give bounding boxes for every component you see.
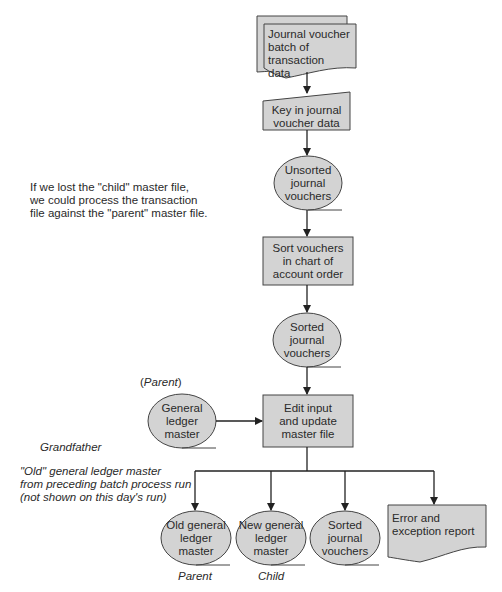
label-line: ledger: [233, 532, 309, 545]
label-line: journal: [273, 334, 341, 347]
label-line: Unsorted: [274, 164, 342, 177]
child-caption: Child: [258, 570, 284, 583]
label-line: Error and: [392, 512, 486, 525]
label-line: master: [233, 545, 309, 558]
label-line: in chart of: [263, 255, 353, 268]
label-line: master: [148, 428, 216, 441]
label-line: vouchers: [309, 545, 381, 558]
parent-word: Parent: [144, 376, 178, 388]
label-line: New general: [233, 519, 309, 532]
label-line: Journal voucher: [268, 28, 358, 41]
label-line: exception report: [392, 525, 486, 538]
error-report-label: Error and exception report: [392, 512, 486, 538]
label-line: master file: [263, 428, 353, 441]
label-line: vouchers: [274, 190, 342, 203]
label-line: Sort vouchers: [263, 242, 353, 255]
note-line: file against the "parent" master file.: [30, 207, 270, 220]
label-line: journal: [309, 532, 381, 545]
unsorted-label: Unsorted journal vouchers: [274, 164, 342, 203]
label-line: and update: [263, 415, 353, 428]
grandfather-label: Grandfather: [40, 441, 101, 454]
sort-label: Sort vouchers in chart of account order: [263, 242, 353, 281]
label-line: Old general: [158, 519, 234, 532]
label-line: data: [268, 67, 358, 80]
key-in-label: Key in journal voucher data: [263, 104, 350, 130]
label-line: master: [158, 545, 234, 558]
gl-master-label: General ledger master: [148, 402, 216, 441]
label-line: ledger: [158, 532, 234, 545]
edit-label: Edit input and update master file: [263, 402, 353, 441]
old-note: "Old" general ledger master from precedi…: [20, 465, 220, 504]
label-line: Edit input: [263, 402, 353, 415]
note-line: (not shown on this day's run): [20, 491, 220, 504]
sorted-label: Sorted journal vouchers: [273, 321, 341, 360]
paren: ): [178, 376, 182, 388]
parent-caption: Parent: [178, 570, 212, 583]
label-line: batch of transaction: [268, 41, 358, 67]
label-line: vouchers: [273, 347, 341, 360]
label-line: Sorted: [273, 321, 341, 334]
journal-batch-label: Journal voucher batch of transaction dat…: [268, 28, 358, 80]
note-line: we could process the transaction: [30, 194, 270, 207]
label-line: account order: [263, 268, 353, 281]
parent-tag: (Parent): [140, 376, 182, 389]
old-gl-label: Old general ledger master: [158, 519, 234, 558]
note-line: from preceding batch process run: [20, 478, 220, 491]
sorted-out-label: Sorted journal vouchers: [309, 519, 381, 558]
label-line: General: [148, 402, 216, 415]
label-line: voucher data: [263, 117, 350, 130]
new-gl-label: New general ledger master: [233, 519, 309, 558]
label-line: Key in journal: [263, 104, 350, 117]
label-line: journal: [274, 177, 342, 190]
note-line: If we lost the "child" master file,: [30, 181, 270, 194]
child-note: If we lost the "child" master file, we c…: [30, 181, 270, 220]
label-line: ledger: [148, 415, 216, 428]
note-line: "Old" general ledger master: [20, 465, 220, 478]
label-line: Sorted: [309, 519, 381, 532]
